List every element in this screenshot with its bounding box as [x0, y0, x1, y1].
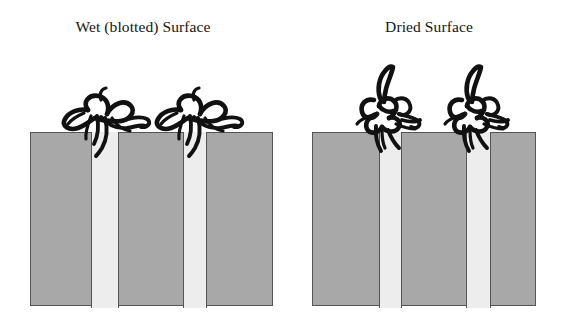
pore-channel-wet-left: [91, 132, 119, 308]
panel-title-wet: Wet (blotted) Surface: [0, 18, 286, 36]
pore-channel-dried-left: [379, 132, 402, 308]
panel-dried-surface: Dried Surface: [286, 0, 572, 324]
substrate-block-dried: [312, 132, 536, 306]
figure-root: Wet (blotted) Surface: [0, 0, 572, 324]
panel-wet-surface: Wet (blotted) Surface: [0, 0, 286, 324]
panel-title-dried: Dried Surface: [286, 18, 572, 36]
substrate-block-wet: [30, 132, 273, 306]
pore-channel-dried-right: [466, 132, 491, 308]
pore-channel-wet-right: [183, 132, 207, 308]
